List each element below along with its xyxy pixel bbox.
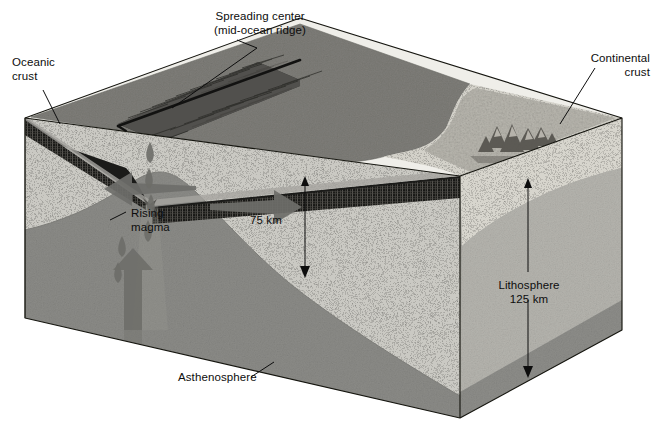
block-diagram-svg	[0, 0, 655, 446]
figure-canvas: Oceanic crust Spreading center (mid-ocea…	[0, 0, 655, 446]
